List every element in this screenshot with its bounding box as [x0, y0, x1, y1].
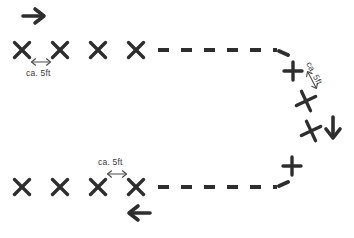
marker-bottom-3	[91, 180, 106, 195]
marker-curve-3	[301, 121, 320, 140]
dashed-path-top	[158, 50, 288, 55]
marker-bottom-2	[53, 180, 68, 195]
direction-arrow-return	[129, 206, 150, 220]
marker-top-2	[53, 43, 68, 58]
spacing-label-top: ca. 5ft	[26, 68, 51, 78]
diagram-svg	[0, 0, 354, 238]
marker-bottom-1	[15, 180, 30, 195]
marker-curve-1	[284, 62, 302, 80]
marker-top-1	[15, 43, 30, 58]
marker-curve-2	[296, 91, 315, 110]
spacing-label-bottom: ca. 5ft	[98, 157, 123, 167]
marker-top-4	[129, 43, 144, 58]
marker-top-3	[91, 43, 106, 58]
diagram-canvas: ca. 5ft ca. 5ft ca. 5ft	[0, 0, 354, 238]
spacing-arrow-top	[32, 59, 51, 65]
spacing-arrow-bottom	[108, 171, 127, 177]
dashed-path-bottom	[158, 182, 288, 187]
marker-curve-4	[283, 157, 301, 175]
marker-bottom-4	[129, 180, 144, 195]
direction-arrow-start	[23, 9, 44, 23]
direction-arrow-descend	[326, 117, 340, 138]
